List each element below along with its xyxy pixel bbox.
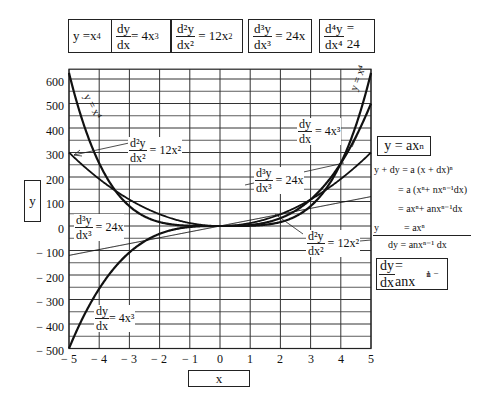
derivation-line: = a (xⁿ+ nxⁿ⁻¹dx) — [398, 184, 467, 195]
curve-label-second-derivative-left: d²ydx² = 12x² — [128, 137, 182, 164]
derivation-line: y + dy = a (x + dx)ⁿ — [374, 164, 453, 175]
curve-label-first-derivative-left: dydx= 4x³ — [94, 305, 135, 332]
denominator: dx³ — [256, 181, 272, 194]
numerator: d²y — [129, 137, 147, 151]
denominator: dx² — [130, 151, 146, 164]
result-rhs: = anx — [395, 258, 426, 290]
curve-label-second-derivative-right: d²ydx² = 12x² — [306, 230, 360, 257]
numerator: d³y — [75, 214, 93, 228]
label-rhs: = 4x³ — [315, 124, 340, 139]
denominator: dx — [96, 319, 108, 332]
numerator: dy — [95, 305, 109, 319]
derivation-title: y = ax — [384, 138, 419, 154]
curve-label-first-derivative-right: dydx = 4x³ — [297, 118, 341, 145]
derivation-title-box: y = axn — [377, 136, 431, 156]
curve-label-third-derivative-right: d³ydx³ = 24x — [254, 167, 304, 194]
denominator: dx² — [308, 244, 324, 257]
derivation-line: y = axⁿ — [374, 222, 425, 233]
label-rhs: = 4x³ — [109, 311, 134, 326]
label-rhs: = 24x — [276, 173, 304, 188]
label-rhs: = 12x² — [150, 143, 181, 158]
numerator: d²y — [307, 230, 325, 244]
numerator: dy — [379, 259, 395, 275]
denominator: dx — [380, 275, 394, 290]
derivation-divider — [373, 235, 471, 236]
derivation-line: = axⁿ+ anxⁿ⁻¹dx — [398, 203, 462, 214]
derivation-line: dy = anxⁿ⁻¹ dx — [388, 239, 447, 250]
derivation-result-box: dydx= anxn − 1 — [376, 258, 448, 290]
numerator: d³y — [255, 167, 273, 181]
plot-area — [0, 0, 488, 403]
numerator: dy — [298, 118, 312, 132]
denominator: dx³ — [76, 228, 92, 241]
label-rhs: = 24x — [96, 220, 124, 235]
curve-label-third-derivative-left: d³ydx³ = 24x — [74, 214, 124, 241]
label-rhs: = 12x² — [328, 236, 359, 251]
denominator: dx — [299, 132, 311, 145]
